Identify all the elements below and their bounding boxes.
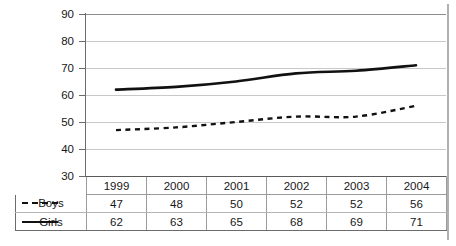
solid-line-icon	[22, 221, 58, 223]
y-axis-label-70: 70	[52, 63, 74, 75]
y-tick-90	[79, 14, 86, 15]
page-margin-rule	[447, 4, 449, 240]
table-header-2002: 2002	[267, 177, 327, 195]
table-row-girls: Girls 62 63 65 68 69 71	[16, 213, 447, 231]
legend-entry-girls: Girls	[16, 213, 87, 231]
cell-boys-2003: 52	[327, 195, 387, 213]
cell-boys-2000: 48	[147, 195, 207, 213]
table-header-1999: 1999	[87, 177, 147, 195]
y-axis-label-50: 50	[52, 117, 74, 129]
y-tick-60	[79, 95, 86, 96]
table-header-2004: 2004	[387, 177, 447, 195]
cell-girls-1999: 62	[87, 213, 147, 231]
line-chart-with-data-table: 90 80 70 60 50 40 30 1999 2000 2001 2002…	[0, 0, 456, 246]
dashed-line-icon	[22, 202, 58, 204]
table-header-2001: 2001	[207, 177, 267, 195]
y-tick-40	[79, 149, 86, 150]
cell-girls-2002: 68	[267, 213, 327, 231]
data-table: 1999 2000 2001 2002 2003 2004 Boys 47 48…	[15, 176, 447, 231]
table-header-row: 1999 2000 2001 2002 2003 2004	[16, 177, 447, 195]
y-tick-50	[79, 122, 86, 123]
y-axis-label-60: 60	[52, 90, 74, 102]
table-row-boys: Boys 47 48 50 52 52 56	[16, 195, 447, 213]
series-line-boys	[116, 106, 416, 130]
cell-girls-2001: 65	[207, 213, 267, 231]
y-axis-label-40: 40	[52, 144, 74, 156]
y-tick-80	[79, 41, 86, 42]
cell-boys-2004: 56	[387, 195, 447, 213]
table-header-2000: 2000	[147, 177, 207, 195]
cell-girls-2003: 69	[327, 213, 387, 231]
cell-girls-2000: 63	[147, 213, 207, 231]
cell-girls-2004: 71	[387, 213, 447, 231]
y-axis-label-80: 80	[52, 36, 74, 48]
cell-boys-2002: 52	[267, 195, 327, 213]
cell-boys-1999: 47	[87, 195, 147, 213]
table-header-2003: 2003	[327, 177, 387, 195]
legend-entry-boys: Boys	[16, 195, 87, 213]
y-tick-70	[79, 68, 86, 69]
series-line-girls	[116, 65, 416, 89]
table-header-legend-blank	[16, 177, 87, 195]
y-axis-label-90: 90	[52, 9, 74, 21]
cell-boys-2001: 50	[207, 195, 267, 213]
series-layer	[86, 14, 446, 176]
